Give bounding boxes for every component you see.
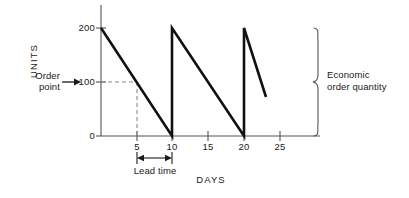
chart-canvas [0,0,409,198]
lead-time-arrow-head-left [137,155,144,161]
lead-time-label: Lead time [130,166,180,177]
lead-time-arrow-head-right [165,155,172,161]
order-point-label-line2: point [24,82,60,93]
y-tick-label-200: 200 [75,23,95,34]
economic-order-quantity-label-line2: order quantity [327,82,387,93]
y-tick-label-100: 100 [75,77,95,88]
x-axis-title: DAYS [190,175,232,186]
x-tick-label-15: 15 [198,142,218,153]
inventory-sawtooth-chart: UNITS 200 100 0 5 10 15 20 25 Order poin… [0,0,409,198]
x-tick-label-25: 25 [270,142,290,153]
y-tick-label-0: 0 [80,131,95,142]
economic-order-quantity-brace [313,28,318,136]
economic-order-quantity-label-line1: Economic [327,70,370,81]
x-tick-label-5: 5 [127,142,147,153]
x-tick-label-10: 10 [162,142,182,153]
x-tick-label-20: 20 [234,142,254,153]
